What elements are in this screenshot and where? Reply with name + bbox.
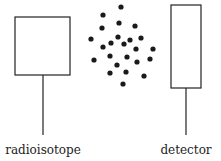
particle-dot (88, 36, 93, 41)
radioisotope-source-box (15, 17, 70, 75)
particle-dot (134, 59, 139, 64)
radioisotope-label: radioisotope (5, 143, 81, 157)
particle-dot (107, 70, 112, 75)
particle-dot (147, 56, 152, 61)
particle-dot (114, 62, 119, 67)
particle-dot (120, 81, 125, 86)
radiation-particles (88, 4, 155, 86)
particle-dot (132, 23, 137, 28)
particle-dot (141, 73, 146, 78)
particle-dot (108, 40, 113, 45)
diagram-canvas (0, 0, 221, 161)
particle-dot (124, 54, 129, 59)
particle-dot (100, 12, 105, 17)
detector-box (171, 5, 201, 88)
particle-dot (116, 20, 121, 25)
particle-dot (115, 34, 120, 39)
particle-dot (118, 4, 123, 9)
particle-dot (91, 57, 96, 62)
particle-dot (123, 69, 128, 74)
particle-dot (138, 35, 143, 40)
particle-dot (133, 46, 138, 51)
particle-dot (127, 37, 132, 42)
particle-dot (121, 41, 126, 46)
particle-dot (99, 25, 104, 30)
particle-dot (150, 46, 155, 51)
detector-label: detector (160, 143, 211, 157)
particle-dot (107, 53, 112, 58)
particle-dot (100, 44, 105, 49)
